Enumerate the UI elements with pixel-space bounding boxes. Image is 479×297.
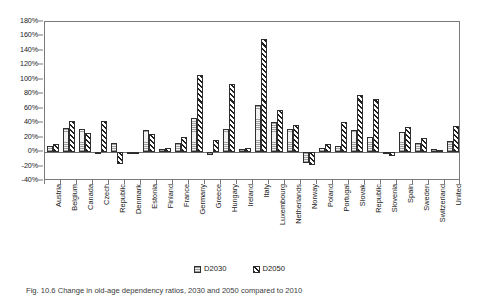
y-tick-label: -20%	[22, 162, 38, 170]
x-axis-label: Belgium	[71, 184, 79, 211]
y-tick-label: -40%	[22, 176, 38, 184]
plot-area	[44, 21, 460, 180]
x-axis-label: Slovak	[359, 184, 367, 206]
x-axis-label: Germany	[199, 184, 207, 214]
bar-group	[301, 22, 317, 179]
y-tick-mark	[38, 136, 43, 137]
x-axis-label: Norway	[311, 184, 319, 209]
legend-item-d2030: D2030	[194, 265, 226, 273]
bar-group	[397, 22, 413, 179]
figure-caption-text: Fig. 10.6 Change in old-age dependency r…	[26, 286, 456, 295]
y-tick-label: 120%	[20, 60, 38, 68]
x-axis-label: Portugal	[343, 184, 351, 212]
x-axis-label: Austria	[55, 184, 63, 207]
bar-d2030	[367, 137, 372, 152]
bar-d2050	[453, 126, 458, 152]
x-axis-label: Luxembourg	[279, 184, 287, 225]
bar-group	[61, 22, 77, 179]
bar-d2030	[255, 105, 260, 152]
bar-d2050	[389, 152, 394, 156]
x-axis-label: Netherlands	[295, 184, 303, 224]
x-axis-label: Republic	[375, 184, 383, 213]
bar-d2030	[223, 129, 228, 152]
bar-d2030	[143, 130, 148, 152]
bar-d2050	[69, 121, 74, 152]
bar-d2030	[271, 122, 276, 152]
legend-swatch-d2050-icon	[253, 266, 260, 273]
bar-d2050	[293, 125, 298, 152]
bar-d2050	[245, 148, 250, 152]
x-axis-label: Sweden	[423, 184, 431, 211]
y-tick-label: 40%	[24, 118, 38, 126]
bar-group	[189, 22, 205, 179]
bar-group	[365, 22, 381, 179]
y-tick-label: 140%	[20, 46, 38, 54]
bar-d2050	[53, 144, 58, 152]
y-tick-label: 100%	[20, 75, 38, 83]
bar-d2050	[197, 75, 202, 152]
bar-group	[93, 22, 109, 179]
bar-d2050	[357, 95, 362, 152]
x-axis-label: Hungary	[231, 184, 239, 212]
bar-d2050	[405, 127, 410, 152]
x-axis-label: Slovenia	[391, 184, 399, 212]
legend-label-d2050: D2050	[263, 265, 285, 273]
legend-label-d2030: D2030	[204, 265, 226, 273]
x-axis-label: Greece	[215, 184, 223, 208]
bar-d2050	[213, 140, 218, 152]
bar-group	[349, 22, 365, 179]
bar-d2030	[303, 152, 308, 163]
x-axis-label: France	[183, 184, 191, 207]
y-axis: 180%160%140%120%100%80%60%40%20%0%-20%-4…	[0, 21, 41, 180]
bar-d2030	[447, 141, 452, 152]
bars-layer	[45, 22, 459, 179]
bar-d2050	[133, 152, 138, 154]
bar-d2050	[325, 144, 330, 152]
bar-group	[45, 22, 61, 179]
x-axis-label: Switzerland	[439, 184, 447, 222]
x-axis-label: Republic	[119, 184, 127, 213]
bar-group	[381, 22, 397, 179]
bar-group	[205, 22, 221, 179]
bar-d2050	[421, 138, 426, 152]
bar-group	[237, 22, 253, 179]
y-tick-label: 60%	[24, 104, 38, 112]
bar-group	[285, 22, 301, 179]
y-tick-mark	[38, 107, 43, 108]
y-tick-mark	[38, 35, 43, 36]
bar-d2030	[191, 118, 196, 152]
y-tick-label: 160%	[20, 31, 38, 39]
bar-group	[333, 22, 349, 179]
x-axis-label: Poland	[327, 184, 335, 207]
y-tick-label: 20%	[24, 133, 38, 141]
bar-d2050	[261, 39, 266, 152]
y-tick-mark	[38, 93, 43, 94]
bar-d2030	[111, 143, 116, 152]
x-axis-label: Ireland	[247, 184, 255, 207]
bar-group	[269, 22, 285, 179]
bar-d2030	[175, 143, 180, 152]
bar-group	[445, 22, 461, 179]
bar-d2050	[437, 150, 442, 152]
bar-d2030	[127, 152, 132, 154]
figure-container: 180%160%140%120%100%80%60%40%20%0%-20%-4…	[0, 0, 479, 297]
x-axis-labels: AustriaBelgiumCanadaCzechRepublicDenmark…	[44, 184, 460, 250]
bar-group	[173, 22, 189, 179]
bar-d2050	[309, 152, 314, 165]
legend-item-d2050: D2050	[253, 265, 285, 273]
y-tick-mark	[38, 64, 43, 65]
bar-group	[253, 22, 269, 179]
y-tick-mark	[38, 21, 43, 22]
bar-d2030	[207, 152, 212, 155]
y-tick-mark	[38, 49, 43, 50]
bar-d2050	[85, 133, 90, 152]
x-axis-label: Estonia	[151, 184, 159, 209]
y-tick-mark	[38, 122, 43, 123]
x-axis-label: Finland	[167, 184, 175, 208]
bar-d2050	[373, 99, 378, 152]
y-tick-mark	[38, 78, 43, 79]
x-axis-label: Canada	[87, 184, 95, 210]
bar-d2030	[79, 129, 84, 152]
bar-d2050	[229, 84, 234, 152]
x-axis-label: United	[455, 184, 463, 205]
